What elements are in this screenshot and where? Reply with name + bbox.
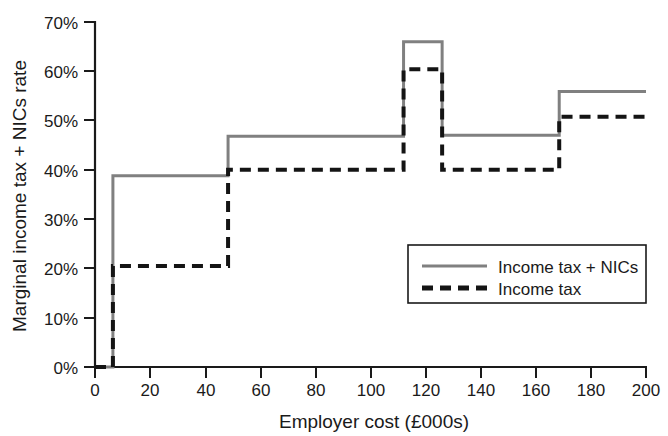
chart-legend: Income tax + NICs Income tax — [408, 245, 646, 303]
x-tick-label-160: 160 — [522, 381, 550, 400]
legend-label-income-tax: Income tax — [498, 280, 582, 299]
x-tick-label-20: 20 — [141, 381, 160, 400]
x-axis-title: Employer cost (£000s) — [279, 411, 469, 432]
y-tick-label-20: 20% — [44, 260, 78, 279]
x-tick-label-60: 60 — [252, 381, 271, 400]
legend-label-income-tax-plus-nics: Income tax + NICs — [498, 258, 638, 277]
y-tick-label-0: 0% — [53, 359, 78, 378]
x-tick-label-80: 80 — [307, 381, 326, 400]
y-tick-label-50: 50% — [44, 112, 78, 131]
x-tick-label-100: 100 — [357, 381, 385, 400]
y-tick-label-10: 10% — [44, 310, 78, 329]
x-tick-label-0: 0 — [90, 381, 99, 400]
y-tick-label-30: 30% — [44, 211, 78, 230]
x-tick-label-120: 120 — [412, 381, 440, 400]
x-tick-label-40: 40 — [197, 381, 216, 400]
chart-background — [0, 0, 668, 436]
y-tick-label-60: 60% — [44, 63, 78, 82]
marginal-tax-rate-step-chart: 70% 60% 50% 40% 30% 20% 10% 0% 0 20 — [0, 0, 668, 436]
y-tick-label-40: 40% — [44, 162, 78, 181]
x-tick-label-200: 200 — [632, 381, 660, 400]
y-tick-label-70: 70% — [44, 14, 78, 33]
x-tick-label-140: 140 — [467, 381, 495, 400]
chart-container: 70% 60% 50% 40% 30% 20% 10% 0% 0 20 — [0, 0, 668, 436]
x-tick-label-180: 180 — [577, 381, 605, 400]
y-axis-title: Marginal income tax + NICs rate — [9, 60, 30, 332]
